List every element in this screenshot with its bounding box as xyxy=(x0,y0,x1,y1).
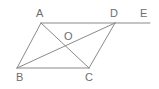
vertex-label-B: B xyxy=(16,72,24,83)
vertex-label-E: E xyxy=(140,8,148,19)
vertex-label-O: O xyxy=(64,31,73,42)
segment-CD xyxy=(89,23,115,68)
geometry-canvas xyxy=(0,0,159,89)
segment-AB xyxy=(17,23,41,68)
vertex-label-A: A xyxy=(36,8,44,19)
vertex-label-D: D xyxy=(110,8,118,19)
vertex-label-C: C xyxy=(85,72,93,83)
segment-layer xyxy=(17,23,150,68)
geometry-figure: A B C D E O xyxy=(0,0,159,89)
